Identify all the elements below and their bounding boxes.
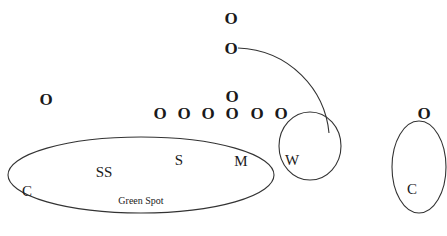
defense-mike: M <box>234 153 247 169</box>
offense-player-motion: O <box>224 39 237 58</box>
defense-strong-safety: SS <box>96 164 113 180</box>
w-zone-circle <box>279 112 341 180</box>
offense-line-5: O <box>250 104 263 123</box>
offense-line-4: O <box>225 104 238 123</box>
defense-safety: S <box>175 152 183 168</box>
offense-player-top: O <box>224 9 237 28</box>
offense-player-left: O <box>39 90 52 109</box>
right-corner-zone <box>392 121 446 213</box>
green-spot-label: Green Spot <box>118 195 163 206</box>
offense-line-6: O <box>274 104 287 123</box>
defense-corner-right: C <box>407 181 417 197</box>
offense-line-2: O <box>177 104 190 123</box>
offense-line-1: O <box>153 104 166 123</box>
defense-corner-left: C <box>22 183 32 199</box>
play-diagram: O O O O O O O O O O O C SS S M W C Green… <box>0 0 447 236</box>
defense-will: W <box>285 152 300 168</box>
offense-player-right: O <box>417 104 430 123</box>
offense-line-3: O <box>201 104 214 123</box>
